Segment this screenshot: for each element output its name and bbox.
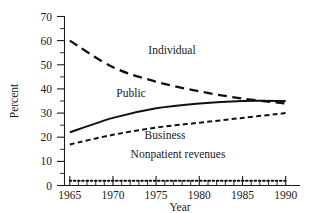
x-axis-major-ticks xyxy=(70,176,286,186)
y-axis-title: Percent xyxy=(8,83,20,118)
x-tick-label: 1985 xyxy=(231,189,254,201)
x-tick-label: 1990 xyxy=(274,189,297,201)
y-axis-tick-labels: 70 60 50 40 30 20 10 0 xyxy=(41,11,53,192)
series-label-business: Business xyxy=(145,129,186,141)
y-tick-label: 40 xyxy=(41,83,53,95)
y-tick-label: 60 xyxy=(41,35,53,47)
y-tick-label: 0 xyxy=(46,180,52,192)
chart-figure: 70 60 50 40 30 20 10 0 Percent xyxy=(0,0,320,213)
series-label-public: Public xyxy=(116,87,145,99)
series-label-nonpatient: Nonpatient revenues xyxy=(131,148,226,161)
y-tick-label: 20 xyxy=(41,131,53,143)
y-tick-label: 70 xyxy=(41,11,53,23)
x-tick-label: 1980 xyxy=(188,189,211,201)
x-axis-tick-labels: 1965 1970 1975 1980 1985 1990 xyxy=(58,189,297,201)
x-tick-label: 1970 xyxy=(102,189,125,201)
y-tick-label: 30 xyxy=(41,107,53,119)
x-tick-label: 1965 xyxy=(58,189,81,201)
y-tick-label: 50 xyxy=(41,59,53,71)
y-tick-label: 10 xyxy=(41,155,53,167)
line-chart: 70 60 50 40 30 20 10 0 Percent xyxy=(0,0,320,213)
series-label-individual: Individual xyxy=(148,44,195,56)
y-axis-minor-ticks xyxy=(60,29,65,174)
series-line-public xyxy=(70,101,286,133)
x-tick-label: 1975 xyxy=(145,189,168,201)
x-axis-title: Year xyxy=(169,201,190,213)
